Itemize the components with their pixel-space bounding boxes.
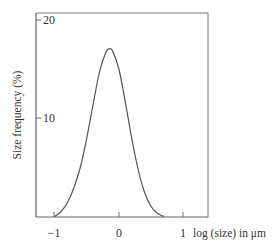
size-frequency-chart: 20 10 −1 0 1 log (size) in μm Size frequ…: [0, 0, 273, 246]
distribution-curve: [55, 49, 165, 217]
x-tick-label-0: 0: [116, 226, 122, 240]
y-tick-label-10: 10: [43, 111, 55, 125]
x-axis-title: log (size) in μm: [193, 227, 266, 240]
x-tick-label-minus1: −1: [48, 226, 61, 240]
y-axis-title: Size frequency (%): [11, 70, 24, 159]
y-tick-label-20: 20: [43, 13, 55, 27]
x-tick-label-1: 1: [180, 226, 186, 240]
